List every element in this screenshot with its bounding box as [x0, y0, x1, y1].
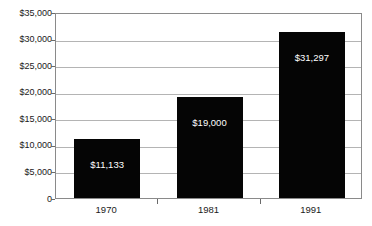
y-axis-tick-mark	[51, 199, 55, 200]
bar: $31,297	[279, 32, 345, 198]
x-axis-tick-mark	[260, 199, 261, 204]
bar: $11,133	[74, 139, 140, 198]
bar-value-label: $11,133	[74, 160, 140, 170]
x-axis-tick-label: 1991	[271, 205, 351, 215]
y-axis-tick-label: $25,000	[0, 62, 52, 71]
y-axis-tick-label: $15,000	[0, 115, 52, 124]
plot-area: $11,133$19,000$31,297	[55, 13, 362, 199]
bar: $19,000	[177, 97, 243, 198]
bar-chart: 0$5,000$10,000$15,000$20,000$25,000$30,0…	[0, 0, 372, 226]
y-axis-tick-label: $20,000	[0, 88, 52, 97]
y-axis-tick-label: $5,000	[0, 168, 52, 177]
x-axis-tick-label: 1970	[66, 205, 146, 215]
y-axis-tick-label: $10,000	[0, 141, 52, 150]
bar-value-label: $31,297	[279, 53, 345, 63]
y-axis-tick-label: $35,000	[0, 9, 52, 18]
y-axis-tick-label: $30,000	[0, 35, 52, 44]
x-axis-tick-label: 1981	[169, 205, 249, 215]
x-axis-tick-mark	[157, 199, 158, 204]
bar-value-label: $19,000	[177, 118, 243, 128]
y-axis-tick-label: 0	[0, 195, 52, 204]
